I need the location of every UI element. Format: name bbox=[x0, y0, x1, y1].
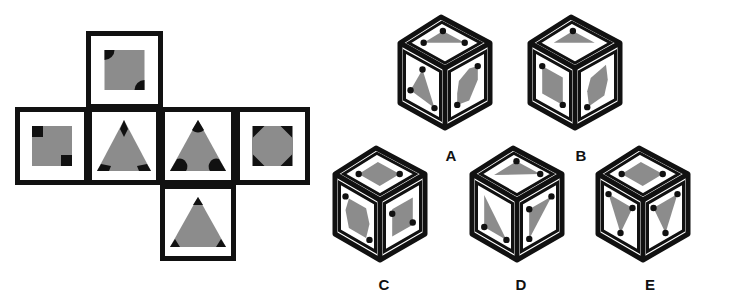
corner-mark-icon bbox=[431, 105, 437, 111]
corner-mark-icon bbox=[618, 171, 624, 177]
corner-mark-icon bbox=[420, 40, 426, 46]
corner-mark-icon bbox=[475, 63, 481, 69]
corner-mark-icon bbox=[454, 102, 460, 108]
answer-cube-e bbox=[598, 148, 688, 260]
net-face-left bbox=[18, 110, 87, 183]
net-face-top bbox=[89, 34, 161, 107]
option-label-d: D bbox=[516, 276, 527, 293]
net-face-right1 bbox=[163, 110, 234, 183]
corner-mark-icon bbox=[560, 102, 566, 108]
answer-cubes bbox=[335, 17, 688, 260]
corner-mark-icon bbox=[570, 28, 576, 34]
answer-cube-b bbox=[530, 17, 620, 128]
net-face-right2 bbox=[238, 110, 308, 183]
cube-net-diagram bbox=[0, 0, 729, 306]
cube-net bbox=[18, 34, 308, 259]
corner-mark-icon bbox=[397, 171, 403, 177]
corner-mark-icon bbox=[539, 63, 545, 69]
answer-cube-d bbox=[472, 148, 562, 260]
option-label-c: C bbox=[379, 276, 390, 293]
corner-mark-icon bbox=[481, 224, 487, 230]
corner-square-icon bbox=[32, 126, 43, 137]
corner-mark-icon bbox=[605, 191, 611, 197]
corner-mark-icon bbox=[617, 230, 623, 236]
corner-mark-icon bbox=[548, 193, 554, 199]
answer-cube-a bbox=[400, 17, 490, 128]
corner-mark-icon bbox=[410, 219, 416, 225]
puzzle-canvas: A B C D E bbox=[0, 0, 729, 306]
option-label-a: A bbox=[446, 147, 457, 164]
corner-mark-icon bbox=[503, 237, 509, 243]
net-face-bottom bbox=[163, 187, 234, 259]
corner-mark-icon bbox=[650, 205, 656, 211]
corner-square-icon bbox=[61, 155, 72, 166]
corner-mark-icon bbox=[662, 230, 668, 236]
corner-mark-icon bbox=[513, 158, 519, 164]
gray-octagon-icon bbox=[253, 126, 293, 166]
corner-mark-icon bbox=[419, 66, 425, 72]
corner-mark-icon bbox=[407, 87, 413, 93]
net-face-center bbox=[90, 110, 159, 183]
corner-mark-icon bbox=[355, 171, 361, 177]
corner-mark-icon bbox=[526, 236, 532, 242]
corner-mark-icon bbox=[342, 193, 348, 199]
corner-mark-icon bbox=[440, 28, 446, 34]
corner-mark-icon bbox=[526, 206, 532, 212]
corner-mark-icon bbox=[366, 237, 372, 243]
corner-mark-icon bbox=[462, 40, 468, 46]
corner-mark-icon bbox=[389, 211, 395, 217]
corner-mark-icon bbox=[629, 205, 635, 211]
corner-mark-icon bbox=[584, 104, 590, 110]
option-label-b: B bbox=[576, 147, 587, 164]
corner-mark-icon bbox=[660, 171, 666, 177]
corner-mark-icon bbox=[537, 171, 543, 177]
answer-cube-c bbox=[335, 148, 425, 260]
option-label-e: E bbox=[645, 276, 655, 293]
corner-mark-icon bbox=[674, 191, 680, 197]
